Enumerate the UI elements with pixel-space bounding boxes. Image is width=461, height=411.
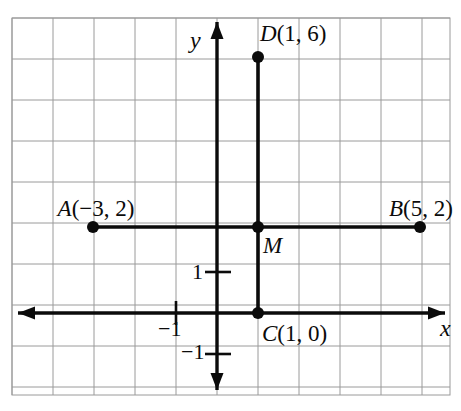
x-axis-label: x	[440, 316, 451, 340]
point-c-label: C(1, 0)	[262, 322, 327, 345]
point-b-label: B(5, 2)	[389, 197, 453, 220]
y-tick-minus1-label: −1	[181, 341, 204, 363]
point-a-letter: A	[58, 196, 72, 221]
point-d-dot	[252, 51, 264, 63]
point-d-letter: D	[260, 21, 277, 46]
point-a-label: A(−3, 2)	[58, 197, 135, 220]
y-tick-1-label: 1	[192, 261, 203, 283]
figure-canvas: A(−3, 2)B(5, 2)C(1, 0)D(1, 6)Mxy1−1−1	[0, 0, 461, 411]
point-b-dot	[414, 221, 426, 233]
point-m-label: M	[263, 234, 282, 257]
point-m-letter: M	[263, 233, 282, 258]
point-c-coords: (1, 0)	[277, 321, 327, 346]
point-m-dot	[252, 221, 264, 233]
point-b-letter: B	[389, 196, 403, 221]
point-a-dot	[87, 221, 99, 233]
x-tick-minus1-label: −1	[158, 318, 181, 340]
point-c-letter: C	[262, 321, 277, 346]
point-d-label: D(1, 6)	[260, 22, 326, 45]
point-b-coords: (5, 2)	[403, 196, 453, 221]
point-a-coords: (−3, 2)	[72, 196, 135, 221]
point-c-dot	[252, 307, 264, 319]
y-axis-label: y	[190, 28, 201, 52]
point-d-coords: (1, 6)	[277, 21, 327, 46]
